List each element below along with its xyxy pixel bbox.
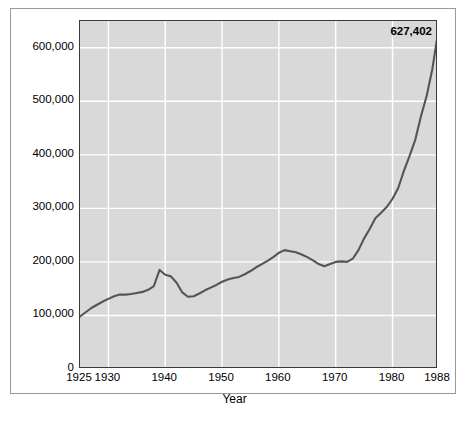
x-tick-label: 1960 bbox=[258, 372, 298, 384]
endpoint-value-annotation: 627,402 bbox=[390, 25, 432, 37]
x-tick-label: 1988 bbox=[417, 372, 457, 384]
plot-area: 627,402 bbox=[79, 20, 437, 368]
figure-container: 0100,000200,000300,000400,000500,000600,… bbox=[0, 0, 469, 430]
plot-wrapper: 627,402 bbox=[79, 20, 437, 368]
x-axis-title: Year bbox=[0, 392, 469, 406]
gridlines bbox=[80, 21, 437, 368]
data-series-line bbox=[80, 33, 437, 316]
x-tick-label: 1980 bbox=[372, 372, 412, 384]
x-tick-label: 1940 bbox=[144, 372, 184, 384]
x-tick-label: 1930 bbox=[87, 372, 127, 384]
x-tick-label: 1950 bbox=[201, 372, 241, 384]
x-tick-label: 1970 bbox=[315, 372, 355, 384]
chart-canvas bbox=[80, 21, 437, 368]
